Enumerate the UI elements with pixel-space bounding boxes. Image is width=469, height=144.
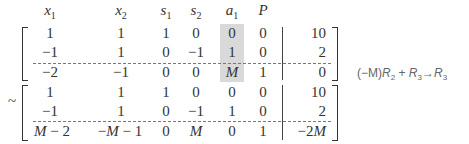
matrix-cell: 1 — [117, 25, 125, 42]
right-bracket-top — [332, 27, 338, 81]
column-header: P — [258, 2, 267, 19]
matrix-cell: 1 — [117, 44, 125, 61]
matrix-cell: 2 — [319, 44, 327, 61]
matrix-cell: 1 — [259, 64, 267, 81]
matrix-cell: −1 — [188, 103, 204, 120]
matrix-cell: −1 — [42, 103, 58, 120]
matrix-cell: 1 — [228, 103, 236, 120]
objective-divider-top — [33, 63, 331, 64]
right-bracket-bottom — [332, 85, 338, 141]
augment-divider-bottom — [282, 85, 283, 140]
matrix-cell: 0 — [319, 64, 327, 81]
column-header: s2 — [191, 2, 202, 21]
matrix-cell: 1 — [259, 123, 267, 140]
matrix-cell: −1 — [113, 64, 129, 81]
equivalence-tilde: ~ — [8, 93, 16, 110]
matrix-cell: 0 — [162, 44, 170, 61]
matrix-cell: 2 — [319, 103, 327, 120]
objective-divider-bottom — [33, 121, 331, 122]
matrix-cell: 10 — [311, 25, 326, 42]
matrix-cell: 0 — [259, 25, 267, 42]
matrix-cell: 1 — [117, 103, 125, 120]
row-operation-label: (−M)R2 + R3→R3 — [357, 66, 447, 82]
column-header: x1 — [44, 2, 56, 21]
matrix-cell: 0 — [259, 44, 267, 61]
column-header: s1 — [161, 2, 172, 21]
matrix-cell: −1 — [42, 44, 58, 61]
matrix-cell: 0 — [192, 84, 200, 101]
matrix-cell: 0 — [162, 103, 170, 120]
matrix-cell: 1 — [46, 84, 54, 101]
left-bracket-top — [22, 27, 28, 81]
matrix-cell: 0 — [192, 25, 200, 42]
matrix-cell: −1 — [188, 44, 204, 61]
matrix-cell: 1 — [46, 25, 54, 42]
matrix-cell: 0 — [192, 64, 200, 81]
matrix-cell: 0 — [228, 84, 236, 101]
matrix-cell: 1 — [228, 44, 236, 61]
matrix-cell: 0 — [162, 64, 170, 81]
matrix-cell: 10 — [311, 84, 326, 101]
augment-divider-top — [282, 27, 283, 80]
matrix-cell: 0 — [259, 84, 267, 101]
matrix-cell: 0 — [162, 123, 170, 140]
matrix-cell: 0 — [259, 103, 267, 120]
matrix-cell: M — [190, 123, 203, 140]
matrix-cell: 1 — [162, 25, 170, 42]
matrix-cell: 0 — [228, 123, 236, 140]
matrix-cell: 1 — [117, 84, 125, 101]
column-header: a1 — [226, 2, 239, 21]
matrix-cell: M − 2 — [34, 123, 70, 140]
left-bracket-bottom — [22, 85, 28, 141]
matrix-cell: −2M — [298, 123, 326, 140]
matrix-cell: 1 — [162, 84, 170, 101]
matrix-cell: M — [226, 64, 239, 81]
matrix-cell: −2 — [42, 64, 58, 81]
matrix-cell: 0 — [228, 25, 236, 42]
matrix-cell: −M − 1 — [98, 123, 142, 140]
column-header: x2 — [115, 2, 127, 21]
